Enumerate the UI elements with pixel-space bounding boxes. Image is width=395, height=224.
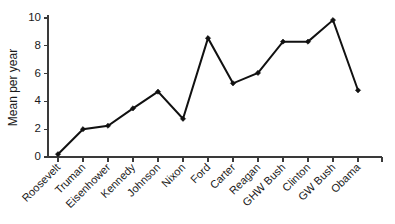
x-tick-label: Roosevelt: [19, 161, 62, 204]
x-tick-label: Nixon: [159, 161, 187, 189]
y-axis-title: Mean per year: [6, 49, 20, 126]
y-tick-label: 6: [35, 67, 41, 79]
x-tick-label-group: RooseveltTrumanEisenhowerKennedyJohnsonN…: [19, 160, 363, 210]
x-axis: RooseveltTrumanEisenhowerKennedyJohnsonN…: [19, 157, 382, 210]
y-tick-label: 4: [35, 94, 42, 106]
y-tick-label: 10: [28, 11, 41, 23]
y-tick-label: 2: [35, 122, 41, 134]
chart-container: 0246810 Mean per year RooseveltTrumanEis…: [0, 0, 395, 224]
data-point-obama: [355, 88, 360, 93]
y-tick-label-group: 0246810: [28, 11, 41, 162]
y-axis: 0246810 Mean per year: [6, 11, 48, 162]
y-tick-label: 8: [35, 39, 41, 51]
x-tick-group: [58, 157, 382, 162]
series-group: [55, 17, 360, 156]
x-tick-label: Obama: [328, 160, 363, 195]
y-tick-label: 0: [35, 150, 41, 162]
line-chart: 0246810 Mean per year RooseveltTrumanEis…: [0, 0, 395, 224]
data-marker-group: [55, 17, 360, 156]
